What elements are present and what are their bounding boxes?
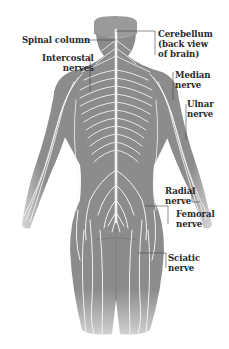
label-median-nerve: Median nerve (175, 70, 210, 90)
label-intercostal-nerves: Intercostal nerves (42, 53, 94, 73)
label-cerebellum: Cerebellum (back view of brain) (158, 29, 213, 59)
label-sciatic-nerve: Sciatic nerve (168, 253, 200, 273)
label-femoral-nerve: Femoral nerve (176, 209, 215, 229)
label-ulnar-nerve: Ulnar nerve (187, 99, 214, 119)
label-radial-nerve: Radial nerve (165, 186, 195, 206)
label-spinal-column: Spinal column (22, 35, 90, 45)
